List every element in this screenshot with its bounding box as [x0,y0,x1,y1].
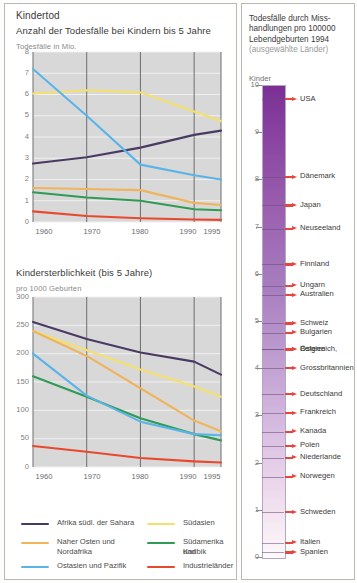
country-label-australien: Australien [300,290,334,299]
country-label-usa: USA [300,95,316,104]
marker-arrow-icon [285,474,298,479]
bar-level-line [262,295,284,296]
infographic-page: Kindertod Anzahl der Todesfälle bei Kind… [0,0,357,583]
country-label-kanada: Kanada [300,427,326,436]
country-label-frankreich: Frankreich [300,408,336,417]
scale-tick-mark-7 [256,227,262,228]
marker-arrow-icon [285,293,298,298]
bar-level-line [262,446,284,447]
bar-level-line [262,229,284,230]
scale-tick-mark-2 [256,463,262,464]
scale-tick-mark-9 [256,132,262,133]
bar-level-line [262,512,284,513]
country-label-bulgarien: Bulgarien [300,328,332,337]
country-label-spanien: Spanien [300,548,328,557]
marker-arrow-icon [285,330,298,335]
marker-arrow-icon [285,540,298,545]
left-panel: Kindertod Anzahl der Todesfälle bei Kind… [4,3,237,580]
scale-tick-mark-3 [256,415,262,416]
legend-label-naher-osten-2: Nordafrika [57,547,92,557]
country-label-grossbritannien: Grossbritannien [300,364,354,373]
bar-level-line [262,394,284,395]
bar-level-line [262,458,284,459]
gradient-scale-bar [262,85,286,559]
country-label-niederlande: Niederlande [300,453,341,462]
scale-tick-mark-1 [256,510,262,511]
right-title-line3: Lebendgeburten 1994 [249,35,349,45]
bar-level-line [262,286,284,287]
legend-label-suedamerika-2: Karibik [183,547,206,557]
bar-level-line [262,323,284,324]
country-label-ungarn: Ungarn [300,281,325,290]
legend-swatch-afrika [21,523,49,525]
bar-level-line [262,349,284,350]
legend-label-afrika: Afrika südl. der Sahara [57,518,134,528]
scale-tick-mark-8 [256,179,262,180]
marker-arrow-icon [285,203,298,208]
legend-label-industrielaender: Industrieländer [183,561,233,571]
bar-level-line [262,477,284,478]
marker-arrow-icon [285,175,298,180]
bar-level-line [262,368,284,369]
marker-arrow-icon [285,444,298,449]
marker-arrow-icon [285,321,298,326]
marker-arrow-icon [285,283,298,288]
legend-swatch-ostasien [21,566,49,568]
legend-swatch-naher-osten [21,542,49,544]
marker-arrow-icon [285,510,298,515]
country-label-deutschland: Deutschland [300,390,342,399]
bar-level-line [262,333,284,334]
marker-arrow-icon [285,226,298,231]
bar-level-line [262,177,284,178]
legend-swatch-industrielaender [147,566,175,568]
scale-tick-mark-6 [256,274,262,275]
bar-level-line [262,432,284,433]
right-panel [241,3,355,580]
country-label-neuseeland: Neuseeland [300,224,341,233]
marker-arrow-icon [285,347,298,352]
marker-arrow-icon [285,262,298,267]
country-label-schweden: Schweden [300,508,335,517]
country-label-belgien: Belgien [300,345,325,354]
legend-label-ostasien: Ostasien und Pazifik [57,561,126,571]
legend-swatch-suedasien [147,523,175,525]
legend-label-naher-osten: Naher Osten und [57,537,115,547]
chart2-series-lines [5,4,236,514]
marker-arrow-icon [285,455,298,460]
right-title-note: (ausgewählte Länder) [249,45,349,55]
marker-arrow-icon [285,429,298,434]
bar-level-line [262,413,284,414]
bar-level-line [262,205,284,206]
marker-arrow-icon [285,392,298,397]
marker-arrow-icon [285,97,298,102]
scale-tick-mark-0 [256,557,262,558]
right-title-line2: handlungen pro 100000 [249,24,349,34]
country-label-schweiz: Schweiz [300,319,328,328]
marker-arrow-icon [285,411,298,416]
country-label-norwegen: Norwegen [300,472,335,481]
country-label-finnland: Finnland [300,260,329,269]
chart-child-mortality-rate: 300 250 200 150 100 50 0 1960 1970 1980 … [5,4,236,514]
marker-arrow-icon [285,366,298,371]
marker-arrow-icon [285,550,298,555]
country-label-japan: Japan [300,201,321,210]
bar-level-line [262,552,284,553]
country-label-dänemark: Dänemark [300,172,335,181]
country-label-polen: Polen [300,441,319,450]
legend-label-suedasien: Südasien [183,518,215,528]
scale-tick-mark-5 [256,321,262,322]
scale-tick-mark-10 [256,85,262,86]
bar-level-line [262,99,284,100]
right-title-line1: Todesfälle durch Miss- [249,14,349,24]
country-label-italien: Italien [300,538,320,547]
legend-swatch-suedamerika [147,542,175,544]
bar-level-line [262,264,284,265]
right-panel-title: Todesfälle durch Miss- handlungen pro 10… [249,14,349,56]
bar-level-line [262,543,284,544]
